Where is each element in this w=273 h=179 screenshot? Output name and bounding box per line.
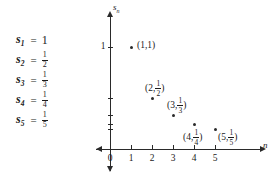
fraction-denominator: 5 [228, 138, 234, 146]
x-axis-label: n [263, 140, 268, 150]
x-tick-label-2: 2 [147, 153, 157, 163]
x-tick-label-3: 3 [168, 153, 178, 163]
fraction-numerator: 1 [155, 80, 161, 88]
x-axis-line [96, 149, 264, 150]
data-point [193, 123, 196, 126]
equation-row: s3 = 1 3 [16, 70, 96, 90]
fraction-denominator: 5 [42, 121, 48, 130]
fraction-numerator: 1 [228, 129, 234, 137]
equation-list: s1 = 1 s2 = 1 2 s3 = 1 3 [16, 30, 96, 130]
x-tick-5 [215, 145, 216, 150]
equation-rhs: 1 2 [42, 51, 48, 69]
fraction-denominator: 2 [42, 61, 48, 70]
fraction-denominator: 4 [193, 138, 199, 146]
point-label-4: (4, 1 4 ) [183, 129, 202, 146]
x-tick-label-5: 5 [210, 153, 220, 163]
fraction-numerator: 1 [42, 111, 48, 120]
fraction-denominator: 3 [177, 106, 183, 114]
fraction: 1 3 [42, 71, 48, 89]
x-axis-arrow-left-icon [96, 146, 102, 152]
fraction-numerator: 1 [193, 129, 199, 137]
y-axis-line [110, 16, 111, 171]
fraction-denominator: 4 [42, 101, 48, 110]
equation-lhs: s2 [16, 52, 24, 68]
y-tick-third [108, 115, 113, 116]
y-tick-half [108, 98, 113, 99]
equation-rhs: 1 3 [42, 71, 48, 89]
equation-row: s4 = 1 4 [16, 90, 96, 110]
x-tick-label-4: 4 [189, 153, 199, 163]
fraction-denominator: 2 [155, 89, 161, 97]
equals-sign: = [24, 74, 41, 86]
equation-row: s2 = 1 2 [16, 50, 96, 70]
fraction: 1 4 [42, 91, 48, 109]
point-label-3: (3, 1 3 ) [167, 97, 186, 114]
x-tick-3 [173, 145, 174, 150]
point-label-2: (2, 1 2 ) [145, 80, 164, 97]
equation-rhs: 1 4 [42, 91, 48, 109]
data-point [130, 46, 133, 49]
fraction-denominator: 3 [42, 81, 48, 90]
equation-lhs: s4 [16, 92, 24, 108]
y-tick-fifth [108, 129, 113, 130]
equation-rhs: 1 [42, 33, 48, 48]
x-tick-label-1: 1 [126, 153, 136, 163]
equation-lhs: s1 [16, 32, 24, 48]
equation-rhs: 1 5 [42, 111, 48, 129]
sequence-figure: s1 = 1 s2 = 1 2 s3 = 1 3 [0, 0, 273, 179]
equals-sign: = [24, 114, 41, 126]
point-label-5: (5, 1 5 ) [218, 129, 237, 146]
y-axis-arrow-down-icon [107, 166, 113, 172]
equation-row: s1 = 1 [16, 30, 96, 50]
equals-sign: = [24, 94, 41, 106]
data-point [214, 128, 217, 131]
y-tick-quarter [108, 124, 113, 125]
fraction-numerator: 1 [42, 91, 48, 100]
equals-sign: = [24, 54, 41, 66]
data-point [172, 114, 175, 117]
equation-lhs: s5 [16, 112, 24, 128]
equals-sign: = [24, 34, 41, 46]
fraction: 1 5 [42, 111, 48, 129]
point-label-1: (1, 1) [137, 41, 155, 51]
x-tick-1 [131, 145, 132, 150]
fraction: 1 2 [42, 51, 48, 69]
y-tick-label-1: 1 [98, 41, 108, 51]
equation-row: s5 = 1 5 [16, 110, 96, 130]
scatter-plot: sn n 0 1 2 3 4 5 1 (1, 1) (2, [96, 0, 273, 179]
fraction-numerator: 1 [42, 51, 48, 60]
data-point [151, 97, 154, 100]
x-tick-2 [152, 145, 153, 150]
y-axis-label: sn [113, 2, 120, 14]
fraction-numerator: 1 [42, 71, 48, 80]
x-tick-label-0: 0 [105, 153, 115, 163]
equation-lhs: s3 [16, 72, 24, 88]
y-tick-1 [108, 47, 113, 48]
fraction-numerator: 1 [177, 97, 183, 105]
